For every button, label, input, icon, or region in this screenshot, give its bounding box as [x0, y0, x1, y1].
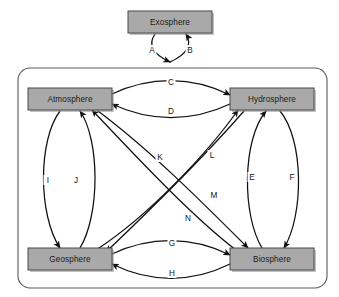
edge-label-text: F	[289, 173, 294, 182]
edge-n	[92, 110, 236, 250]
edge-label-b: B	[186, 45, 195, 55]
edge-label-f: F	[288, 172, 297, 182]
node-label: Atmosphere	[47, 95, 92, 104]
edge-label-h: H	[168, 268, 177, 278]
edge-label-text: N	[185, 214, 191, 223]
edge-label-k: K	[156, 152, 165, 162]
edge-label-a: A	[148, 45, 157, 55]
edge-label-text: H	[169, 269, 175, 278]
edge-label-text: B	[187, 46, 193, 55]
edge-label-text: J	[74, 176, 78, 185]
edge-label-text: M	[211, 191, 218, 200]
edge-label-m: M	[210, 190, 219, 200]
edge-label-text: D	[168, 107, 174, 116]
edge-label-n: N	[184, 213, 193, 223]
edge-label-text: G	[169, 239, 175, 248]
edge-label-text: K	[157, 153, 163, 162]
edge-labels-layer: ABCDEFGHIJKLMN	[44, 45, 297, 278]
nodes-layer: ExosphereAtmosphereHydrosphereGeosphereB…	[28, 11, 316, 272]
edge-label-g: G	[168, 238, 177, 248]
node-label: Geosphere	[49, 255, 91, 264]
edge-m	[96, 110, 238, 250]
edge-label-text: C	[168, 78, 174, 87]
node-label: Biosphere	[253, 255, 291, 264]
edge-j	[80, 111, 95, 248]
edge-label-text: I	[47, 176, 49, 185]
edge-label-d: D	[167, 106, 176, 116]
edge-label-text: A	[149, 46, 155, 55]
node-biosphere[interactable]: Biosphere	[230, 248, 316, 272]
edge-label-l: L	[208, 150, 217, 160]
edge-label-i: I	[44, 175, 53, 185]
node-hydrosphere[interactable]: Hydrosphere	[230, 88, 316, 112]
edge-label-c: C	[167, 77, 176, 87]
edge-label-text: E	[249, 173, 255, 182]
node-geosphere[interactable]: Geosphere	[28, 248, 114, 272]
edge-label-e: E	[248, 172, 257, 182]
spheres-diagram: ExosphereAtmosphereHydrosphereGeosphereB…	[0, 0, 339, 297]
node-label: Exosphere	[150, 18, 190, 27]
node-exosphere[interactable]: Exosphere	[128, 11, 214, 35]
node-atmosphere[interactable]: Atmosphere	[28, 88, 114, 112]
node-label: Hydrosphere	[248, 95, 296, 104]
edge-l	[106, 111, 244, 252]
edge-label-j: J	[72, 175, 81, 185]
edge-label-text: L	[210, 151, 215, 160]
diagram-canvas: ExosphereAtmosphereHydrosphereGeosphereB…	[0, 0, 339, 297]
